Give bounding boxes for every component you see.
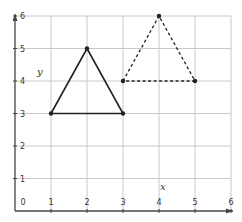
y-tick-label: 2	[20, 142, 25, 151]
y-axis-label: y	[36, 66, 43, 77]
y-axis-arrow-icon	[13, 14, 18, 21]
y-tick-label: 4	[20, 77, 25, 86]
vertex-point	[49, 111, 53, 115]
vertex-point	[121, 111, 125, 115]
y-tick-label: 5	[20, 45, 25, 54]
x-tick-label: 0	[20, 198, 25, 207]
vertex-point	[193, 79, 197, 83]
x-tick-label: 4	[156, 198, 161, 207]
x-axis-label: x	[160, 181, 166, 192]
x-tick-label: 6	[228, 198, 233, 207]
vertex-point	[121, 79, 125, 83]
x-tick-label: 5	[192, 198, 197, 207]
y-tick-label: 3	[20, 110, 25, 119]
vertex-point	[85, 46, 89, 50]
coordinate-grid-chart: 0123456123456 y x	[0, 0, 242, 222]
vertex-point	[157, 14, 161, 18]
x-axis-arrow-icon	[226, 209, 233, 214]
x-tick-label: 3	[120, 198, 125, 207]
tick-labels: 0123456123456	[20, 12, 234, 207]
x-tick-label: 2	[84, 198, 89, 207]
y-tick-label: 1	[20, 175, 25, 184]
x-tick-label: 1	[48, 198, 53, 207]
y-tick-label: 6	[20, 12, 25, 21]
